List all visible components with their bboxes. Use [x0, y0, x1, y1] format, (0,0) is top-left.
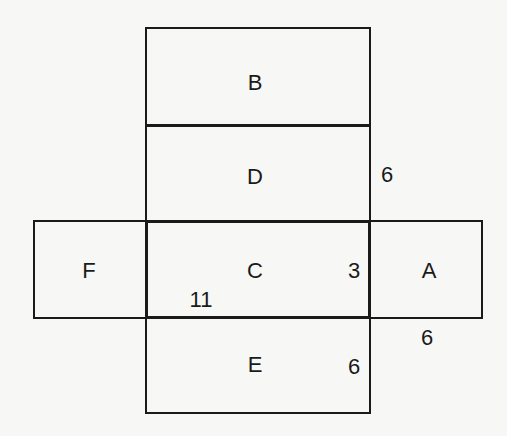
face-label-f: F [82, 260, 95, 282]
face-label-b: B [248, 72, 263, 94]
dimension-label: 3 [348, 260, 360, 282]
face-label-c: C [247, 260, 263, 282]
face-label-e: E [248, 354, 263, 376]
face-label-a: A [422, 260, 437, 282]
dimension-label: 11 [190, 289, 213, 311]
dimension-label: 6 [348, 356, 360, 378]
dimension-label: 6 [381, 164, 393, 186]
face-label-d: D [247, 166, 263, 188]
dimension-label: 6 [421, 327, 433, 349]
